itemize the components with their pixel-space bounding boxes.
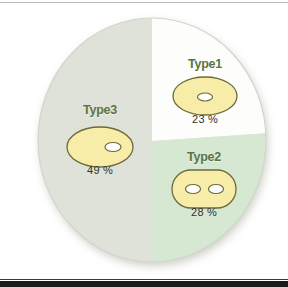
figure-canvas: Type1 23 % Type2 28 % Type3 49 % bbox=[0, 0, 288, 287]
pie-chart-graphic bbox=[0, 0, 288, 276]
slice-percent-type2: 28 % bbox=[191, 206, 217, 218]
type2-glyph-icon bbox=[172, 170, 236, 208]
slice-label-type1: Type1 bbox=[188, 57, 222, 71]
type3-glyph-icon bbox=[67, 127, 133, 167]
type1-glyph-icon bbox=[173, 77, 237, 115]
bottom-divider-hairline bbox=[0, 279, 288, 280]
pie-slices bbox=[20, 10, 285, 270]
slice-percent-type3: 49 % bbox=[87, 164, 113, 176]
pie-chart: Type1 23 % Type2 28 % Type3 49 % bbox=[0, 0, 288, 276]
bottom-divider-bar bbox=[0, 281, 288, 287]
slice-label-type2: Type2 bbox=[187, 150, 221, 164]
slice-label-type3: Type3 bbox=[83, 103, 117, 117]
slice-percent-type1: 23 % bbox=[192, 113, 218, 125]
